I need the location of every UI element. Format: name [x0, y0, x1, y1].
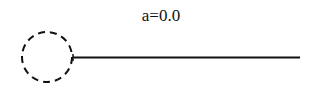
diagram-canvas [0, 0, 316, 94]
dashed-circle [22, 32, 72, 82]
